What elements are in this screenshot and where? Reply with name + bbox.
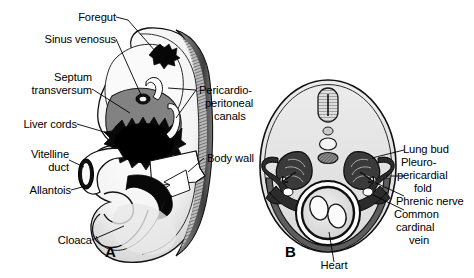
label-lung-bud: Lung bud: [403, 143, 449, 156]
label-common-cardinal-line1: Common: [394, 208, 439, 221]
notochord: [323, 127, 333, 135]
dorsal-aorta: [320, 138, 337, 150]
common-cardinal-vein-left: [283, 188, 293, 196]
label-sinus-venosus: Sinus venosus: [0, 33, 116, 46]
label-vitelline-duct-line1: Vitelline: [0, 148, 69, 161]
label-vitelline-duct-line2: duct: [0, 161, 69, 174]
label-body-wall: Body wall: [207, 152, 254, 165]
panel-label-b: B: [285, 243, 296, 260]
panel-a-artwork: [69, 17, 213, 262]
label-heart: Heart: [311, 259, 357, 272]
common-cardinal-vein-right: [363, 188, 373, 196]
embryo-diagram-figure: Foregut Sinus venosus Septum transversum…: [0, 0, 474, 278]
label-pericardio-peritoneal-line2: peritoneal: [205, 97, 253, 110]
label-phrenic-nerve: Phrenic nerve: [396, 195, 464, 208]
label-common-cardinal-line2: cardinal: [396, 221, 434, 234]
label-septum-transversum-line1: Septum: [0, 71, 92, 84]
panel-b-artwork: [260, 80, 404, 262]
label-pericardio-peritoneal-line1: Pericardio-: [199, 84, 252, 97]
label-pericardio-peritoneal-line3: canals: [214, 110, 246, 123]
label-common-cardinal-line3: vein: [409, 234, 429, 247]
label-pleuro-pericardial-line2: pericardial: [397, 169, 448, 182]
label-pleuro-pericardial-line1: Pleuro-: [401, 156, 436, 169]
label-cloaca: Cloaca: [0, 234, 92, 247]
panel-label-a: A: [105, 243, 116, 260]
label-pleuro-pericardial-line3: fold: [414, 182, 432, 195]
label-septum-transversum-line2: transversum: [0, 84, 92, 97]
label-liver-cords: Liver cords: [0, 118, 77, 131]
sinus-venosus-lumen: [140, 97, 147, 102]
esophagus: [318, 153, 338, 164]
label-foregut: Foregut: [0, 11, 116, 24]
label-allantois: Allantois: [0, 184, 71, 197]
